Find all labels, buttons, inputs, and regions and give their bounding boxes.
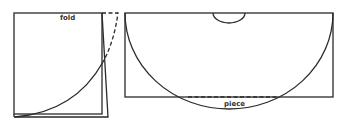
unfolded-piece-figure: piece	[125, 13, 333, 109]
unfolded-rectangle	[125, 13, 333, 97]
fold-label: fold	[60, 14, 75, 22]
piece-label: piece	[224, 100, 245, 108]
quarter-circle-cut	[15, 62, 103, 117]
large-semicircle-cut	[125, 13, 333, 109]
pattern-diagram: fold piece	[0, 0, 350, 130]
folded-fabric-outline	[14, 13, 102, 114]
fold-back-edge	[14, 13, 108, 117]
neck-semicircle	[213, 13, 245, 23]
folded-fabric-figure: fold	[14, 13, 118, 117]
